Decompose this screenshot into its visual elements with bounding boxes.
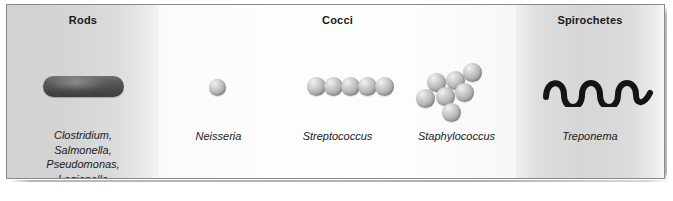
panel-title-rods: Rods — [7, 14, 159, 26]
figure-shadow-right — [665, 7, 667, 181]
figure-shadow-bottom — [9, 180, 668, 182]
bacterial-morphology-figure: Rods Clostridium, Salmonella, Pseudomona… — [6, 4, 665, 179]
species-label-treponema: Treponema — [516, 129, 664, 144]
rod-bacterium-shape — [43, 76, 124, 97]
species-label-neisseria: Neisseria — [159, 129, 278, 144]
panel-title-spirochetes: Spirochetes — [516, 14, 664, 26]
panel-cocci: Cocci Neisseria Streptococcus Staphyloco… — [159, 5, 516, 178]
group-streptococcus: Streptococcus — [278, 5, 397, 178]
group-neisseria: Neisseria — [159, 5, 278, 178]
coccus-chain-5 — [375, 77, 394, 96]
species-label-staphylococcus: Staphylococcus — [397, 129, 516, 144]
spirochete-wave-shape — [542, 67, 654, 107]
species-label-streptococcus: Streptococcus — [278, 129, 397, 144]
group-staphylococcus: Staphylococcus — [397, 5, 516, 178]
coccus-cluster-4 — [416, 89, 435, 108]
panel-spirochetes: Spirochetes Treponema — [516, 5, 664, 178]
species-label-rods: Clostridium, Salmonella, Pseudomonas, Le… — [7, 128, 159, 179]
coccus-cluster-1 — [463, 63, 482, 82]
coccus-single — [209, 79, 226, 96]
coccus-cluster-7 — [442, 103, 461, 122]
coccus-cluster-6 — [455, 83, 474, 102]
panel-rods: Rods Clostridium, Salmonella, Pseudomona… — [7, 5, 159, 178]
